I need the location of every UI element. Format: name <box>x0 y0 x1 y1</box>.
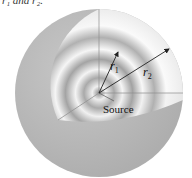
label-source: Source <box>103 103 134 115</box>
cutaway-wavefronts <box>99 9 183 93</box>
spherical-wave-diagram: r1 r2 Source <box>0 0 192 178</box>
